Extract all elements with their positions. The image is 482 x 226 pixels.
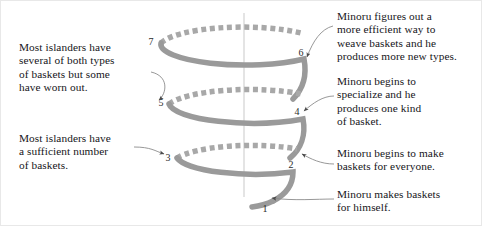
annotation-minoru-everyone: Minoru begins to make baskets for everyo… [337,147,477,174]
coil-solid-bottom [177,158,293,201]
step-number-4: 4 [295,106,300,117]
step-number-6: 6 [299,47,304,58]
leader-line-efficient [307,26,333,57]
coil-dashed-top [161,27,301,43]
annotation-minoru-himself: Minoru makes baskets for himself. [337,188,477,215]
annotation-islanders-sufficient: Most islanders have a sufficient number … [19,132,165,172]
leader-line-specialize [304,96,334,111]
step-number-3: 3 [166,152,171,163]
coil-dashed-bottom [177,145,297,158]
step-number-1: 1 [263,203,268,214]
leader-line-everyone [302,154,334,164]
annotation-minoru-efficient: Minoru figures out a more efficient way … [337,10,479,64]
diagram-canvas: 7 6 5 4 3 2 1 Most islanders have severa… [0,0,482,226]
coil-dashed-middle [169,89,301,104]
coil-solid-middle [169,104,304,158]
step-number-2: 2 [289,159,294,170]
annotation-minoru-specialize: Minoru begins to specialize and he produ… [337,75,473,129]
annotation-islanders-worn-out: Most islanders have several of both type… [19,41,165,95]
